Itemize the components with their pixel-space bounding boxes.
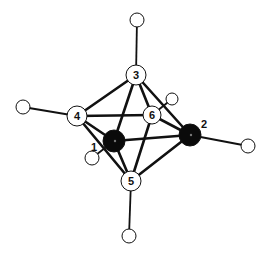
hydrogen-atoms — [16, 13, 255, 243]
atom-2-highlight — [190, 134, 192, 136]
terminal-bonds — [23, 20, 248, 236]
atom-label-3: 3 — [133, 69, 139, 81]
atom-label-4: 4 — [74, 110, 81, 122]
hydrogen-atom-2 — [241, 139, 255, 153]
hydrogen-atom-5 — [122, 229, 136, 243]
atom-label-2: 2 — [201, 118, 207, 130]
hydrogen-atom-4 — [16, 100, 30, 114]
hydrogen-atom-6 — [166, 93, 178, 105]
atom-label-5: 5 — [128, 175, 134, 187]
hydrogen-atom-3 — [130, 13, 144, 27]
bond-4-6 — [77, 115, 152, 116]
bond-3-2 — [136, 75, 190, 135]
atom-label-1: 1 — [91, 141, 97, 153]
hydrogen-atom-1 — [85, 151, 99, 165]
bond-3-4 — [77, 75, 136, 116]
atom-label-6: 6 — [149, 109, 155, 121]
bond-4-5 — [77, 116, 131, 181]
molecule-svg: 123456 — [0, 0, 266, 257]
atom-1-highlight — [114, 140, 116, 142]
molecule-diagram: 123456 — [0, 0, 266, 257]
